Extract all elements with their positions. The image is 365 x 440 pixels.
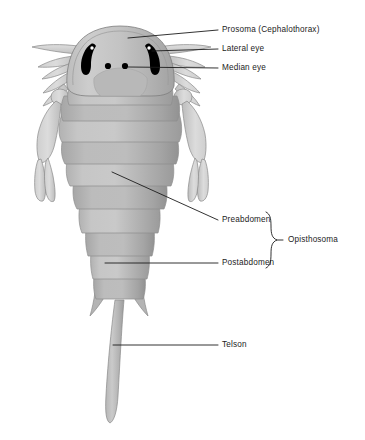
postabdomen <box>79 204 160 299</box>
left-leg-main <box>37 101 61 163</box>
label-preabdomen: Preabdomen <box>222 215 271 225</box>
left-leg-podomere-1 <box>35 159 46 201</box>
eurypterid-illustration <box>0 0 365 440</box>
median-eye-left <box>105 63 111 69</box>
telson <box>90 292 148 423</box>
left-leg-podomere-2 <box>45 158 56 202</box>
postabdomen-segment-5 <box>94 276 146 299</box>
anatomy-diagram: Prosoma (Cephalothorax) Lateral eye Medi… <box>0 0 365 440</box>
label-postabdomen: Postabdomen <box>222 258 274 268</box>
label-lateral-eye: Lateral eye <box>222 44 264 54</box>
lateral-eye-right-highlight <box>147 46 150 49</box>
right-leg-main <box>182 101 206 163</box>
lateral-eye-left-highlight <box>90 46 93 49</box>
telson-spike <box>106 300 124 423</box>
prosoma-metastoma <box>94 68 147 96</box>
preabdomen <box>59 84 182 209</box>
median-eye-right <box>122 63 128 69</box>
label-opisthosoma: Opisthosoma <box>288 235 338 245</box>
right-leg-podomere-2 <box>188 158 199 202</box>
right-leg-podomere-1 <box>197 159 208 201</box>
label-telson: Telson <box>222 340 247 350</box>
label-median-eye: Median eye <box>222 63 266 73</box>
label-prosoma: Prosoma (Cephalothorax) <box>222 25 320 35</box>
